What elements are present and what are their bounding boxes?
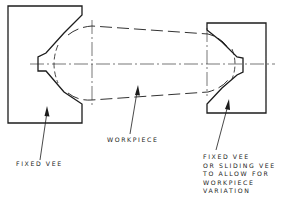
arrow-icon — [135, 85, 140, 96]
left-vee-block — [8, 6, 82, 123]
label-line: FIXED VEE — [203, 153, 276, 162]
label-right-vee: FIXED VEE OR SLIDING VEE TO ALLOW FOR WO… — [203, 153, 276, 196]
arrowheads — [45, 85, 231, 117]
center-lines — [30, 20, 275, 108]
leader-lines — [40, 92, 228, 160]
arrow-icon — [225, 99, 230, 110]
arrow-icon — [45, 106, 50, 117]
label-line: TO ALLOW FOR — [203, 170, 276, 179]
label-line: OR SLIDING VEE — [203, 162, 276, 171]
label-workpiece: WORKPIECE — [107, 136, 158, 145]
label-line: WORKPIECE — [203, 179, 276, 188]
label-line: VARIATION — [203, 187, 276, 196]
label-fixed-vee: FIXED VEE — [16, 160, 63, 169]
right-vee-block — [207, 23, 266, 113]
